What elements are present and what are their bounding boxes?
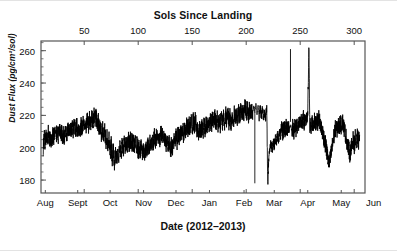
y-tick-260: 260 bbox=[6, 45, 35, 56]
x-bottom-tick-sept: Sept bbox=[68, 197, 88, 208]
x-bottom-tick-may: May bbox=[332, 197, 350, 208]
x-top-tick-200: 200 bbox=[238, 25, 254, 36]
y-tick-180: 180 bbox=[6, 175, 35, 186]
x-top-tick-300: 300 bbox=[346, 25, 362, 36]
figure-container: Sols Since Landing Dust Flux (pg/cm²/sol… bbox=[0, 0, 397, 251]
y-tick-220: 220 bbox=[6, 110, 35, 121]
x-top-tick-150: 150 bbox=[184, 25, 200, 36]
x-bottom-tick-mar: Mar bbox=[266, 197, 282, 208]
x-top-tick-250: 250 bbox=[292, 25, 308, 36]
plot-area bbox=[0, 1, 397, 251]
x-bottom-tick-nov: Nov bbox=[135, 197, 152, 208]
y-tick-240: 240 bbox=[6, 78, 35, 89]
data-series-dust-flux bbox=[43, 48, 359, 185]
x-bottom-tick-dec: Dec bbox=[168, 197, 185, 208]
x-top-tick-50: 50 bbox=[79, 25, 90, 36]
x-bottom-tick-jan: Jan bbox=[202, 197, 217, 208]
x-bottom-tick-oct: Oct bbox=[103, 197, 118, 208]
x-bottom-tick-feb: Feb bbox=[236, 197, 252, 208]
x-bottom-tick-apr: Apr bbox=[300, 197, 315, 208]
x-top-tick-100: 100 bbox=[130, 25, 146, 36]
x-bottom-tick-jun: Jun bbox=[366, 197, 381, 208]
x-bottom-tick-aug: Aug bbox=[37, 197, 54, 208]
y-tick-200: 200 bbox=[6, 142, 35, 153]
